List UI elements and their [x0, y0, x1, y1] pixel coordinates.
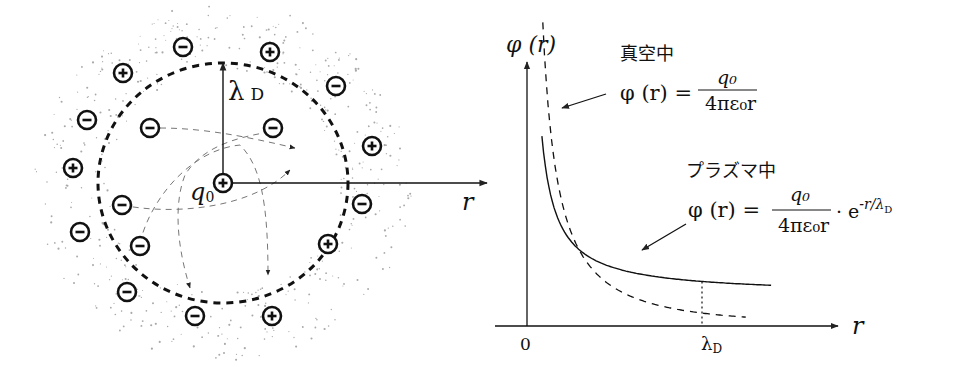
speckle-dot	[295, 64, 297, 66]
speckle-dot	[257, 304, 259, 306]
speckle-dot	[248, 292, 250, 294]
speckle-dot	[375, 213, 377, 215]
speckle-dot	[217, 335, 218, 336]
speckle-dot	[159, 341, 161, 343]
electron-trajectories	[122, 128, 295, 288]
speckle-dot	[278, 24, 279, 25]
speckle-dot	[272, 336, 273, 337]
speckle-dot	[383, 184, 384, 185]
speckle-dot	[323, 121, 324, 122]
speckle-dot	[251, 314, 253, 316]
speckle-dot	[280, 284, 281, 285]
speckle-dot	[316, 319, 318, 321]
speckle-dot	[35, 169, 36, 170]
plasma-exponential-factor: ·e-r/λD	[836, 196, 892, 222]
speckle-dot	[355, 70, 357, 72]
speckle-dot	[198, 29, 200, 31]
speckle-dot	[67, 178, 69, 180]
speckle-dot	[84, 144, 86, 146]
speckle-dot	[182, 311, 184, 313]
speckle-dot	[316, 268, 318, 270]
speckle-dot	[100, 263, 101, 264]
speckle-dot	[315, 327, 317, 329]
speckle-dot	[54, 147, 55, 148]
speckle-dot	[285, 294, 286, 295]
speckle-dot	[325, 272, 327, 274]
speckle-dot	[102, 61, 103, 62]
speckle-dot	[338, 149, 339, 150]
speckle-dot	[81, 187, 82, 188]
figure-canvas: λD r q0 φ (r) r 0 λD 真空中 φ (r) = q₀ 4πε₀…	[0, 0, 957, 379]
speckle-dot	[386, 153, 387, 154]
speckle-dot	[283, 62, 285, 64]
speckle-dot	[258, 290, 259, 291]
speckle-dot	[237, 338, 239, 340]
speckle-dot	[179, 305, 180, 306]
speckle-dot	[272, 327, 274, 329]
speckle-dot	[327, 74, 328, 75]
speckle-dot	[62, 140, 64, 142]
speckle-dot	[300, 84, 302, 86]
speckle-dot	[208, 37, 210, 39]
speckle-dot	[410, 195, 411, 196]
speckle-dot	[64, 125, 66, 127]
speckle-dot	[171, 310, 172, 311]
speckle-dot	[314, 273, 316, 275]
speckle-dot	[310, 98, 312, 100]
speckle-dot	[65, 247, 66, 248]
speckle-dot	[340, 192, 342, 194]
central-charge-icon	[214, 174, 232, 192]
vacuum-formula-lhs: φ (r) =	[620, 81, 692, 105]
speckle-dot	[324, 80, 325, 81]
speckle-dot	[409, 193, 411, 195]
speckle-dot	[341, 242, 343, 244]
speckle-dot	[285, 36, 287, 38]
speckle-dot	[175, 306, 177, 308]
speckle-dot	[328, 65, 330, 67]
speckle-dot	[108, 53, 109, 54]
speckle-dot	[106, 266, 107, 267]
trajectory-2	[178, 132, 270, 288]
speckle-dot	[389, 155, 391, 157]
speckle-dot	[251, 25, 253, 27]
speckle-dot	[266, 29, 268, 31]
speckle-dot	[338, 277, 340, 279]
speckle-dot	[216, 27, 217, 28]
speckle-dot	[161, 84, 163, 86]
speckle-dot	[179, 29, 180, 30]
speckle-dot	[260, 316, 262, 318]
speckle-dot	[156, 52, 158, 54]
speckle-dot	[230, 320, 232, 322]
speckle-dot	[62, 167, 63, 168]
vacuum-numerator: q₀	[717, 66, 737, 88]
speckle-dot	[390, 246, 392, 248]
speckle-dot	[200, 38, 202, 40]
speckle-dot	[129, 249, 131, 251]
speckle-dot	[384, 144, 386, 146]
speckle-dot	[80, 150, 82, 152]
speckle-dot	[247, 299, 248, 300]
speckle-dot	[312, 33, 314, 35]
negative-ion-icon	[327, 77, 345, 95]
speckle-dot	[171, 10, 173, 12]
speckle-dot	[196, 36, 197, 37]
speckle-dot	[259, 36, 261, 38]
speckle-dot	[92, 264, 94, 266]
speckle-dot	[349, 82, 351, 84]
speckle-dot	[200, 44, 201, 45]
speckle-dot	[369, 102, 371, 104]
speckle-dot	[219, 327, 220, 328]
speckle-dot	[282, 53, 283, 54]
speckle-dot	[274, 34, 276, 36]
speckle-dot	[53, 139, 55, 141]
speckle-dot	[140, 80, 142, 82]
speckle-dot	[291, 91, 293, 93]
origin-label: 0	[520, 334, 531, 354]
speckle-dot	[257, 17, 258, 18]
speckle-dot	[352, 177, 354, 179]
speckle-dot	[354, 188, 356, 190]
speckle-dot	[295, 346, 297, 348]
speckle-dot	[67, 185, 69, 187]
speckle-dot	[349, 150, 351, 152]
speckle-dot	[299, 69, 300, 70]
